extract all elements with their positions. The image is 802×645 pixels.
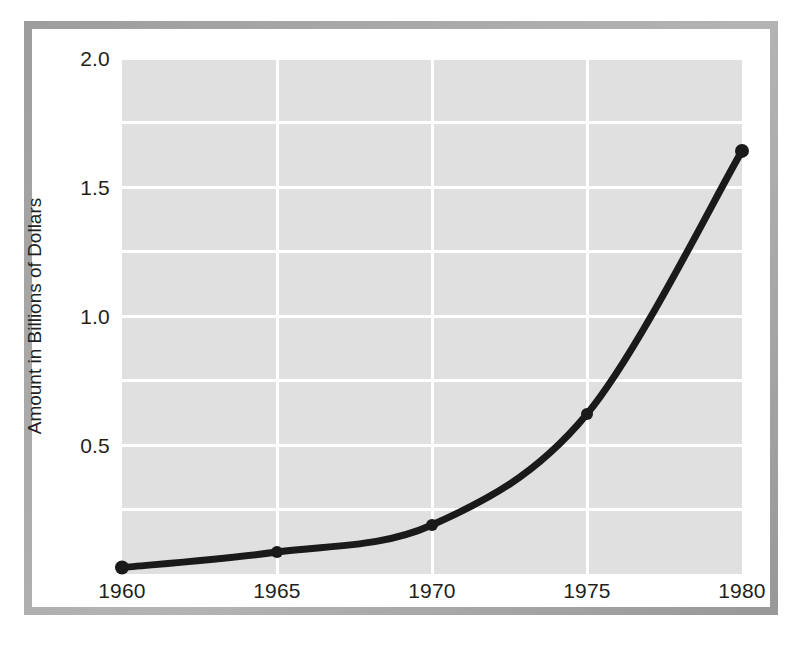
gridline-vertical (276, 58, 279, 574)
x-axis-tick-label: 1980 (692, 580, 792, 601)
x-axis-tick-label: 1975 (537, 580, 637, 601)
figure-root: 2.01.51.00.5 19601965197019751980 Amount… (0, 0, 802, 645)
x-axis-tick-label: 1960 (72, 580, 172, 601)
y-axis-title: Amount in Billions of Dollars (22, 58, 48, 574)
gridline-vertical (586, 58, 589, 574)
plot-area (122, 58, 742, 574)
x-axis-tick-label: 1965 (227, 580, 327, 601)
x-axis-tick-labels: 19601965197019751980 (122, 580, 742, 610)
gridline-vertical (431, 58, 434, 574)
x-axis-tick-label: 1970 (382, 580, 482, 601)
